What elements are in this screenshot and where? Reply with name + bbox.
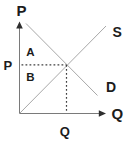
supply-label: S	[113, 24, 122, 40]
diagram-canvas: P Q S D P A B Q	[0, 0, 129, 144]
supply-demand-diagram: P Q S D P A B Q	[0, 0, 129, 144]
equilibrium-price-label: P	[4, 58, 13, 73]
region-b-label: B	[26, 71, 34, 83]
demand-label: D	[106, 79, 116, 95]
x-axis-label: Q	[112, 105, 124, 122]
region-a-label: A	[26, 46, 34, 58]
y-axis-label: P	[16, 2, 26, 19]
equilibrium-quantity-label: Q	[60, 124, 70, 139]
